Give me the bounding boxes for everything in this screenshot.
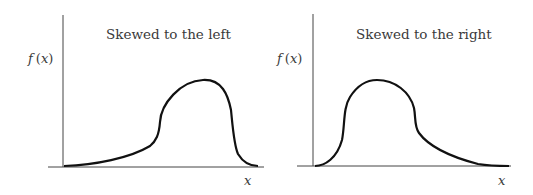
left-chart-title: Skewed to the left: [106, 26, 231, 42]
right-chart-title: Skewed to the right: [356, 26, 492, 42]
right-y-label: f(x): [276, 51, 302, 66]
left-chart: Skewed to the left f(x) x: [27, 15, 264, 188]
left-skewed-curve: [64, 80, 258, 166]
right-skewed-curve: [315, 80, 509, 166]
skewness-figure: Skewed to the left f(x) x Skewed to the …: [0, 0, 533, 195]
left-x-label: x: [244, 173, 252, 188]
left-y-label: f(x): [27, 51, 53, 66]
right-chart: Skewed to the right f(x) x: [276, 14, 511, 188]
right-x-label: x: [498, 173, 506, 188]
